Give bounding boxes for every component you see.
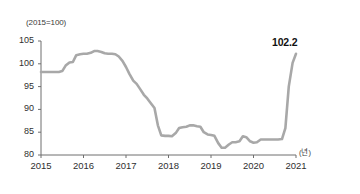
axis-lines	[41, 41, 296, 155]
data-line-series	[41, 51, 296, 148]
chart-container: (2015=100) 10510095908580 20152016201720…	[0, 0, 360, 194]
x-tick-label-2020: 2020	[234, 160, 274, 171]
x-tick-label-2017: 2017	[106, 160, 146, 171]
x-tick-label-2019: 2019	[191, 160, 231, 171]
x-tick-label-2018: 2018	[149, 160, 189, 171]
last-value-annotation: 102.2	[272, 36, 297, 48]
y-tick-label-100: 100	[10, 58, 34, 68]
y-tick-label-105: 105	[10, 35, 34, 45]
y-tick-label-85: 85	[10, 126, 34, 136]
x-axis-unit-label: (년)	[299, 146, 311, 157]
y-tick-label-95: 95	[10, 81, 34, 91]
y-tick-label-90: 90	[10, 103, 34, 113]
y-tick-label-80: 80	[10, 149, 34, 159]
x-tick-label-2016: 2016	[64, 160, 104, 171]
x-tick-label-2021: 2021	[276, 160, 316, 171]
x-tick-label-2015: 2015	[21, 160, 61, 171]
